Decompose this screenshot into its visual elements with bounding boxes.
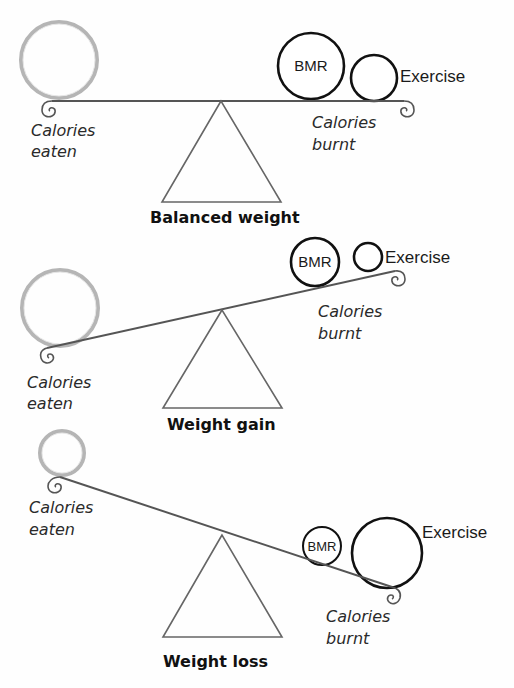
calories-burnt-label-line2: burnt bbox=[312, 135, 356, 154]
bmr-label: BMR bbox=[308, 539, 337, 554]
fulcrum-triangle bbox=[162, 101, 281, 202]
fulcrum-triangle bbox=[163, 310, 282, 408]
exercise-label: Exercise bbox=[422, 523, 487, 542]
exercise-circle bbox=[351, 55, 397, 101]
bmr-label: BMR bbox=[294, 57, 328, 74]
calories-eaten-circle bbox=[21, 22, 97, 98]
energy-balance-diagram: BMR Exercise Calories eaten Calories bur… bbox=[0, 0, 514, 688]
scale-balanced-weight: BMR Exercise Calories eaten Calories bur… bbox=[21, 22, 465, 227]
right-curl-icon bbox=[401, 101, 414, 117]
scale-title: Weight gain bbox=[167, 415, 276, 434]
calories-eaten-label: Calories bbox=[27, 373, 91, 392]
calories-burnt-label: Calories bbox=[318, 302, 382, 321]
exercise-label: Exercise bbox=[400, 67, 465, 86]
calories-burnt-label-line2: burnt bbox=[318, 324, 362, 343]
bmr-circle: BMR bbox=[291, 238, 339, 286]
scale-title: Balanced weight bbox=[150, 208, 300, 227]
fulcrum-triangle bbox=[163, 535, 282, 637]
calories-burnt-label: Calories bbox=[326, 607, 390, 626]
scale-weight-loss: BMR Exercise Calories eaten Calories bur… bbox=[29, 431, 487, 671]
calories-eaten-circle bbox=[22, 270, 98, 346]
left-curl-icon bbox=[48, 477, 61, 493]
bmr-circle: BMR bbox=[278, 33, 344, 99]
calories-burnt-label-line2: burnt bbox=[326, 629, 370, 648]
scale-title: Weight loss bbox=[163, 652, 268, 671]
exercise-circle bbox=[354, 243, 382, 271]
beam bbox=[60, 477, 392, 587]
calories-eaten-circle bbox=[40, 431, 84, 475]
bmr-label: BMR bbox=[298, 253, 332, 270]
calories-eaten-label-line2: eaten bbox=[27, 394, 73, 413]
right-curl-icon bbox=[388, 587, 401, 604]
calories-eaten-label-line2: eaten bbox=[31, 142, 77, 161]
calories-eaten-label-line2: eaten bbox=[29, 520, 75, 539]
scale-weight-gain: BMR Exercise Calories eaten Calories bur… bbox=[22, 238, 450, 434]
left-curl-icon bbox=[41, 348, 54, 363]
calories-burnt-label: Calories bbox=[312, 113, 376, 132]
right-curl-icon bbox=[392, 271, 405, 286]
left-curl-icon bbox=[42, 101, 55, 117]
exercise-label: Exercise bbox=[385, 248, 450, 267]
calories-eaten-label: Calories bbox=[31, 121, 95, 140]
calories-eaten-label: Calories bbox=[29, 498, 93, 517]
